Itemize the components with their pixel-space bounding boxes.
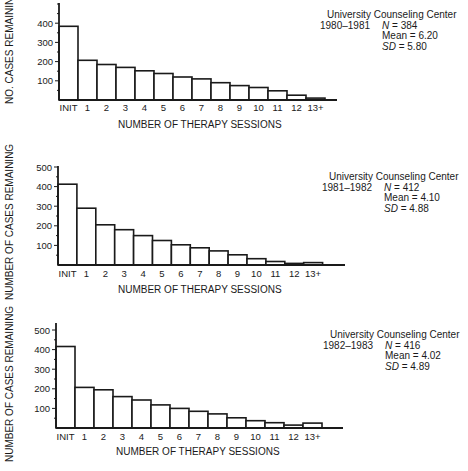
y-tick-label: 200 <box>37 56 53 67</box>
stat-n-value: 412 <box>403 182 420 193</box>
bar-4 <box>135 71 154 100</box>
bar-13+ <box>306 98 325 100</box>
bar-12 <box>285 263 304 265</box>
bar-3 <box>113 397 132 428</box>
stat-sd-label: SD <box>382 41 396 52</box>
chart-panel-3: 100200300400500INIT12345678910111213+NUM… <box>0 0 468 471</box>
x-tick-label: 10 <box>253 102 264 113</box>
x-tick-label: 6 <box>177 431 182 442</box>
x-tick-label: 9 <box>235 268 240 279</box>
x-tick-label: 6 <box>180 102 185 113</box>
y-tick-label: 500 <box>36 162 52 173</box>
bar-2 <box>94 390 113 428</box>
stat-mean: Mean = 6.20 <box>382 31 438 42</box>
y-tick-label: 300 <box>34 364 50 375</box>
bar-13+ <box>303 423 322 428</box>
bar-7 <box>190 248 209 265</box>
bar-INIT <box>56 347 75 429</box>
x-tick-label: 2 <box>103 268 108 279</box>
bar-13+ <box>304 263 323 265</box>
x-tick-label: 10 <box>251 268 262 279</box>
y-axis-label: NUMBER OF CASES REMAINING <box>4 306 15 462</box>
org-name: University Counseling Center <box>327 10 457 21</box>
stat-mean-value: 4.10 <box>420 192 439 203</box>
org-name: University Counseling Center <box>329 172 459 183</box>
x-tick-label: 5 <box>159 268 164 279</box>
y-tick-label: 100 <box>34 403 50 414</box>
stat-n-value: 416 <box>404 340 421 351</box>
x-axis-label: NUMBER OF THERAPY SESSIONS <box>118 284 282 295</box>
x-tick-label: 5 <box>158 431 163 442</box>
bar-8 <box>211 83 230 100</box>
eq: = <box>410 350 421 361</box>
x-tick-label: 1 <box>85 102 90 113</box>
x-tick-label: 11 <box>273 102 283 113</box>
bar-4 <box>132 400 151 428</box>
x-tick-label: 7 <box>196 431 201 442</box>
bar-12 <box>287 95 306 100</box>
stat-n-label: N <box>382 20 389 31</box>
stat-sd-label: SD <box>385 361 399 372</box>
eq: = <box>398 203 409 214</box>
x-tick-label: 3 <box>120 431 125 442</box>
x-tick-label: 13+ <box>307 102 324 113</box>
eq: = <box>391 182 402 193</box>
x-tick-label: 11 <box>270 268 280 279</box>
x-tick-label: 8 <box>215 431 220 442</box>
y-tick-label: 300 <box>36 201 52 212</box>
y-axis-label: NUMBER OF CASES REMAINING <box>4 144 15 300</box>
bar-1 <box>77 208 96 265</box>
bar-8 <box>209 251 228 265</box>
stat-sd: SD = 4.89 <box>385 362 430 373</box>
stat-sd-value: 5.80 <box>407 41 426 52</box>
bar-1 <box>75 387 94 428</box>
bar-12 <box>284 425 303 428</box>
y-tick-label: 100 <box>37 75 53 86</box>
bar-7 <box>189 411 208 428</box>
bar-11 <box>266 262 285 266</box>
stat-n: N = 416 <box>385 341 420 352</box>
stat-n-value: 384 <box>401 20 418 31</box>
x-tick-label: INIT <box>60 102 78 113</box>
x-tick-label: 1 <box>82 431 87 442</box>
bar-8 <box>208 414 227 428</box>
y-tick-label: 100 <box>36 240 52 251</box>
bar-5 <box>153 241 172 266</box>
x-tick-label: 12 <box>288 431 299 442</box>
stat-mean-label: Mean <box>382 30 407 41</box>
y-axis-label: NO. CASES REMAINING <box>4 0 15 104</box>
bar-6 <box>173 77 192 100</box>
academic-year: 1980–1981 <box>320 21 370 32</box>
x-tick-label: INIT <box>59 268 77 279</box>
x-tick-label: 6 <box>178 268 183 279</box>
bar-2 <box>97 65 116 101</box>
bar-9 <box>228 255 247 265</box>
stat-sd-label: SD <box>384 203 398 214</box>
academic-year: 1982–1983 <box>323 341 373 352</box>
x-tick-label: 13+ <box>305 268 322 279</box>
eq: = <box>399 361 410 372</box>
eq: = <box>396 41 407 52</box>
x-tick-label: 11 <box>270 431 280 442</box>
x-tick-label: 3 <box>121 268 126 279</box>
y-tick-label: 400 <box>37 18 53 29</box>
stat-n-label: N <box>385 340 392 351</box>
x-axis-label: NUMBER OF THERAPY SESSIONS <box>118 119 282 130</box>
bar-3 <box>115 230 134 265</box>
eq: = <box>392 340 403 351</box>
stat-n-label: N <box>384 182 391 193</box>
stat-mean-label: Mean <box>385 350 410 361</box>
bar-10 <box>249 88 268 101</box>
y-tick-label: 400 <box>36 181 52 192</box>
bar-10 <box>247 259 266 265</box>
eq: = <box>389 20 400 31</box>
x-tick-label: 13+ <box>304 431 321 442</box>
y-tick-label: 200 <box>34 383 50 394</box>
x-tick-label: INIT <box>57 431 75 442</box>
x-tick-label: 10 <box>250 431 261 442</box>
stat-mean-label: Mean <box>384 192 409 203</box>
bar-11 <box>265 423 284 428</box>
bar-10 <box>246 421 265 428</box>
academic-year: 1981–1982 <box>322 183 372 194</box>
org-name: University Counseling Center <box>330 330 460 341</box>
